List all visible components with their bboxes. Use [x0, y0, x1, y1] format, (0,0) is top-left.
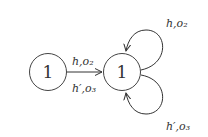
edge-label-top: h,o₂	[72, 55, 94, 68]
edge-left-to-right: h,o₂ h′,o₃	[67, 55, 102, 95]
self-loop-top-label: h,o₂	[166, 17, 188, 30]
self-loop-bottom-label: h′,o₃	[166, 120, 190, 133]
state-diagram: 1 1 h,o₂ h′,o₃ h,o₂ h′,o₃	[0, 0, 208, 137]
edge-label-bottom: h′,o₃	[72, 82, 96, 95]
node-left: 1	[30, 54, 67, 91]
node-right-label: 1	[117, 62, 128, 82]
node-right: 1	[104, 54, 141, 91]
node-left-label: 1	[43, 62, 54, 82]
